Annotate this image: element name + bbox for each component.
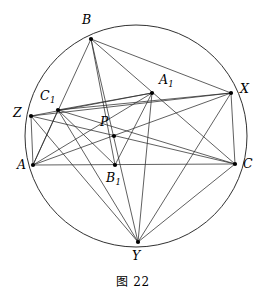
segment-B-C bbox=[91, 39, 235, 164]
vertex-label-b: B bbox=[82, 14, 91, 27]
circumcircle bbox=[25, 25, 247, 247]
vertex-label-text: B bbox=[82, 12, 91, 27]
vertex-dot-y bbox=[136, 240, 140, 244]
segment-A-C bbox=[33, 164, 235, 165]
figure-caption: 图 22 bbox=[0, 272, 266, 289]
chords-group bbox=[31, 39, 235, 242]
segment-Z-C bbox=[31, 116, 235, 164]
vertex-label-subscript: 1 bbox=[50, 95, 55, 105]
vertex-label-y: Y bbox=[132, 250, 140, 263]
segment-B-Y bbox=[91, 39, 138, 242]
vertex-dots-group bbox=[29, 37, 237, 244]
segment-Z-A bbox=[31, 116, 33, 165]
vertex-label-c: C bbox=[243, 158, 253, 171]
vertex-label-subscript: 1 bbox=[115, 177, 120, 187]
vertex-label-text: Z bbox=[13, 105, 22, 120]
vertex-dot-p bbox=[112, 134, 116, 138]
segment-C1-A bbox=[33, 110, 58, 165]
segment-C-C1 bbox=[58, 110, 235, 164]
vertex-label-x: X bbox=[240, 83, 249, 96]
segment-Y-C1 bbox=[58, 110, 138, 242]
segment-C-Y bbox=[138, 164, 235, 242]
vertex-dot-z bbox=[29, 114, 33, 118]
vertex-label-text: P bbox=[100, 114, 108, 129]
segment-A-X bbox=[33, 93, 231, 165]
vertex-label-text: Y bbox=[132, 248, 140, 263]
vertex-label-a1: A1 bbox=[159, 74, 173, 87]
vertex-label-a: A bbox=[17, 159, 26, 172]
vertex-label-text: A bbox=[17, 157, 26, 172]
vertex-label-c1: C1 bbox=[40, 90, 55, 103]
segment-X-Y bbox=[138, 93, 231, 242]
vertex-label-subscript: 1 bbox=[168, 79, 173, 89]
vertex-label-text: C bbox=[40, 88, 50, 103]
vertex-label-text: B bbox=[106, 170, 115, 185]
vertex-label-b1: B1 bbox=[106, 172, 121, 185]
vertex-dot-c1 bbox=[56, 108, 60, 112]
vertex-label-text: X bbox=[240, 81, 249, 96]
vertex-label-p: P bbox=[100, 116, 108, 129]
vertex-dot-b bbox=[89, 37, 93, 41]
vertex-label-text: C bbox=[243, 156, 253, 171]
vertex-label-text: A bbox=[159, 72, 168, 87]
geometry-figure: ABCA1B1C1PXYZ 图 22 bbox=[0, 0, 266, 304]
vertex-dot-a1 bbox=[150, 91, 154, 95]
vertex-dot-c bbox=[233, 162, 237, 166]
vertex-dot-x bbox=[229, 91, 233, 95]
vertex-dot-a bbox=[31, 163, 35, 167]
segment-C-X bbox=[231, 93, 235, 164]
vertex-dot-b1 bbox=[113, 163, 117, 167]
vertex-label-z: Z bbox=[13, 107, 22, 120]
